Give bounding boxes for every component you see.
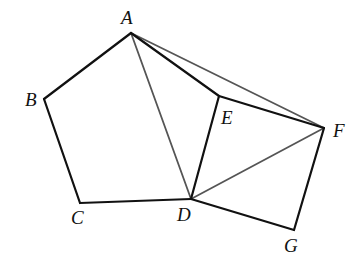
label-g: G [284,235,298,256]
segment-fg [294,128,324,230]
segment-ea [131,33,219,96]
segment-de [191,96,219,199]
segment-gd [191,199,294,230]
segment-cd [80,199,191,203]
label-c: C [71,207,84,228]
label-e: E [220,107,233,128]
segment-ef [219,96,324,128]
segments [44,33,324,230]
label-f: F [332,120,345,141]
segment-df [191,128,324,199]
label-b: B [25,89,37,110]
segment-ab [44,33,131,99]
geometry-diagram: A B C D E F G [0,0,361,268]
label-d: D [176,204,191,225]
label-a: A [119,7,133,28]
segment-bc [44,99,80,203]
